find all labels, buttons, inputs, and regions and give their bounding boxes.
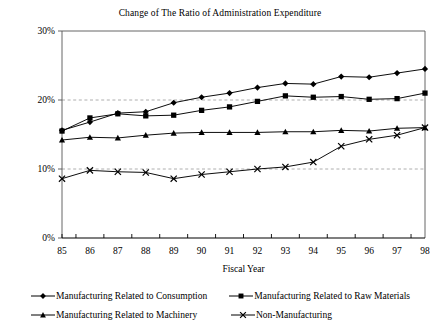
svg-text:93: 93: [281, 246, 291, 256]
legend-row: Manufacturing Related to Machinery Non-M…: [30, 305, 410, 324]
legend-label: Non-Manufacturing: [256, 309, 332, 321]
gridlines: [62, 100, 425, 169]
legend-label: Manufacturing Related to Machinery: [56, 309, 197, 321]
svg-text:98: 98: [420, 246, 430, 256]
svg-text:97: 97: [392, 246, 402, 256]
square-marker-icon: [228, 290, 254, 302]
chart-plot-area: 0%10%20%30% 8586878889909192939495969798…: [0, 0, 440, 286]
svg-text:91: 91: [225, 246, 235, 256]
diamond-marker-icon: [30, 290, 56, 302]
legend-item-machinery: Manufacturing Related to Machinery: [30, 305, 230, 324]
x-axis-title: Fiscal Year: [222, 264, 265, 274]
chart-legend: Manufacturing Related to Consumption Man…: [30, 286, 410, 330]
svg-text:90: 90: [197, 246, 207, 256]
legend-item-consumption: Manufacturing Related to Consumption: [30, 286, 228, 305]
svg-text:92: 92: [253, 246, 263, 256]
svg-text:87: 87: [113, 246, 123, 256]
legend-item-raw-materials: Manufacturing Related to Raw Materials: [228, 286, 410, 305]
svg-text:95: 95: [336, 246, 346, 256]
x-axis-ticks: 8586878889909192939495969798: [57, 234, 430, 256]
chart-container: Change of The Ratio of Administration Ex…: [0, 0, 440, 334]
svg-text:94: 94: [309, 246, 319, 256]
svg-text:20%: 20%: [38, 95, 56, 105]
svg-text:88: 88: [141, 246, 151, 256]
axes: [62, 31, 425, 238]
svg-text:0%: 0%: [42, 233, 55, 243]
svg-text:85: 85: [57, 246, 67, 256]
triangle-marker-icon: [30, 309, 56, 321]
y-axis-ticks: 0%10%20%30%: [38, 26, 62, 243]
svg-text:10%: 10%: [38, 164, 56, 174]
legend-label: Manufacturing Related to Consumption: [56, 290, 207, 302]
svg-text:96: 96: [364, 246, 374, 256]
cross-marker-icon: [230, 309, 256, 321]
svg-text:89: 89: [169, 246, 179, 256]
legend-row: Manufacturing Related to Consumption Man…: [30, 286, 410, 305]
legend-item-non-manufacturing: Non-Manufacturing: [230, 305, 332, 324]
legend-label: Manufacturing Related to Raw Materials: [254, 290, 410, 302]
svg-text:86: 86: [85, 246, 95, 256]
data-series-group: [59, 66, 428, 182]
svg-text:30%: 30%: [38, 26, 56, 36]
